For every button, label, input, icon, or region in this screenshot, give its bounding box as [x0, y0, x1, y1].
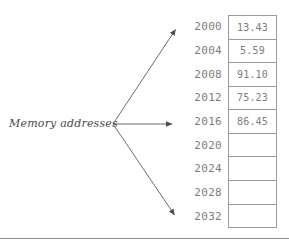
address-column: 2000 2004 2008 2012 2016 2020 2024 2028 …: [182, 15, 222, 228]
address-label-2032: 2032: [182, 204, 222, 228]
memory-cell: 5.59: [229, 40, 276, 64]
memory-cell: 75.23: [229, 87, 276, 111]
memory-cell: 86.45: [229, 110, 276, 134]
memory-cell: 13.43: [229, 16, 276, 40]
address-label-2016: 2016: [182, 110, 222, 134]
address-label-2028: 2028: [182, 181, 222, 205]
address-label-2012: 2012: [182, 86, 222, 110]
footer-divider: [0, 238, 289, 239]
address-label-2020: 2020: [182, 133, 222, 157]
address-label-2000: 2000: [182, 15, 222, 39]
memory-cell: [229, 134, 276, 158]
memory-cell: [229, 181, 276, 205]
arrow-to-2032: [113, 124, 175, 215]
memory-diagram: Memory addresses 2000 2004 2008 2012 201…: [0, 0, 289, 244]
memory-cell: [229, 205, 276, 228]
arrow-to-2000: [113, 30, 176, 125]
address-label-2004: 2004: [182, 39, 222, 63]
memory-cell: [229, 157, 276, 181]
memory-addresses-caption: Memory addresses: [9, 117, 113, 130]
address-label-2024: 2024: [182, 157, 222, 181]
memory-cell: 91.10: [229, 63, 276, 87]
memory-cell-table: 13.43 5.59 91.10 75.23 86.45: [228, 15, 277, 228]
address-label-2008: 2008: [182, 62, 222, 86]
